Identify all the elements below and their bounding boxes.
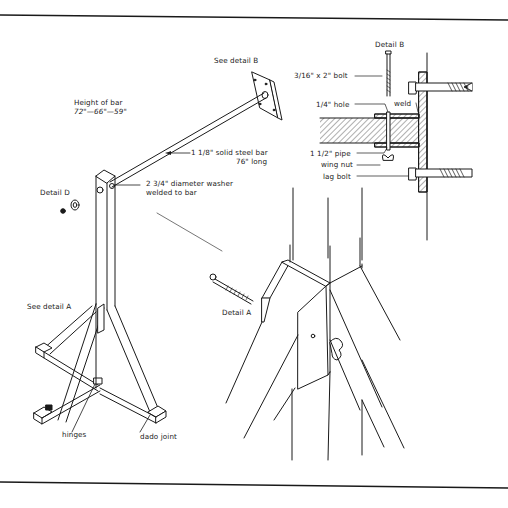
see-detail-a-label: See detail A: [27, 302, 71, 311]
height-of-bar-values: 72"—66"—59": [74, 107, 127, 116]
pipe-label: 1 1/2" pipe: [310, 149, 351, 158]
dado-joint-label: dado joint: [140, 432, 177, 441]
steel-bar-label: 1 1/8" solid steel bar: [191, 148, 268, 157]
detail-a-title: Detail A: [222, 308, 251, 317]
bolt-size-label: 3/16" x 2" bolt: [294, 71, 348, 80]
detail-d-title: Detail D: [40, 188, 70, 197]
weld-label: weld: [394, 99, 411, 108]
washer-label: 2 3/4" diameter washer: [146, 179, 233, 188]
height-of-bar-title: Height of bar: [74, 98, 122, 107]
top-rule: [0, 15, 508, 20]
detail-d-washer: [61, 200, 79, 213]
steel-bar: [110, 93, 266, 187]
wing-nut-label: wing nut: [321, 160, 353, 169]
bottom-rule: [0, 482, 508, 488]
detail-a-assembly: [210, 238, 404, 460]
hole-label: 1/4" hole: [316, 100, 349, 109]
wall-plate: [252, 72, 282, 120]
detail-b-title: Detail B: [375, 40, 404, 49]
steel-bar-length: 76" long: [236, 157, 267, 166]
hinges-label: hinges: [62, 430, 86, 439]
see-detail-b-label: See detail B: [214, 56, 258, 65]
washer-label-2: welded to bar: [146, 188, 197, 197]
post: [96, 170, 115, 310]
tripod-stand: [34, 304, 166, 424]
lag-bolt-label: lag bolt: [323, 172, 351, 181]
